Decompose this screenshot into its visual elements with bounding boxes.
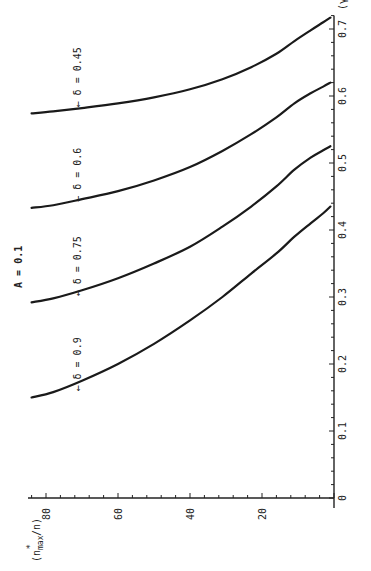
curve-label: ← δ = 0.75 bbox=[72, 236, 83, 296]
gamma-tick-label: 0.7 bbox=[337, 20, 348, 38]
n-axis-label: (nmax*/n) bbox=[25, 518, 45, 562]
curve-label: ← δ = 0.6 bbox=[72, 148, 83, 202]
gamma-tick-label: 0.6 bbox=[337, 87, 348, 105]
n-tick-label: 40 bbox=[185, 508, 196, 520]
n-tick-label: 80 bbox=[41, 508, 52, 520]
gamma-tick-label: 0.5 bbox=[337, 154, 348, 172]
gamma-tick-label: 0 bbox=[337, 495, 348, 501]
gamma-tick-label: 0.4 bbox=[337, 221, 348, 239]
curve-label: ← δ = 0.9 bbox=[72, 337, 83, 391]
n-tick-label: 20 bbox=[257, 508, 268, 520]
chart: 00.10.20.30.40.50.60.7(γ)20406080(nmax*/… bbox=[0, 0, 371, 571]
gamma-tick-label: 0.3 bbox=[337, 288, 348, 306]
curve-labels: A = 0.1← δ = 0.9← δ = 0.75← δ = 0.6← δ =… bbox=[13, 47, 83, 391]
chart-plot: 00.10.20.30.40.50.60.7(γ)20406080(nmax*/… bbox=[0, 0, 371, 571]
gamma-tick-label: 0.2 bbox=[337, 355, 348, 373]
gamma-tick-label: 0.1 bbox=[337, 422, 348, 440]
curve-label: ← δ = 0.45 bbox=[72, 47, 83, 107]
annotation-a: A = 0.1 bbox=[13, 246, 24, 288]
gamma-axis-label: (γ) bbox=[337, 0, 348, 10]
n-tick-label: 60 bbox=[113, 508, 124, 520]
